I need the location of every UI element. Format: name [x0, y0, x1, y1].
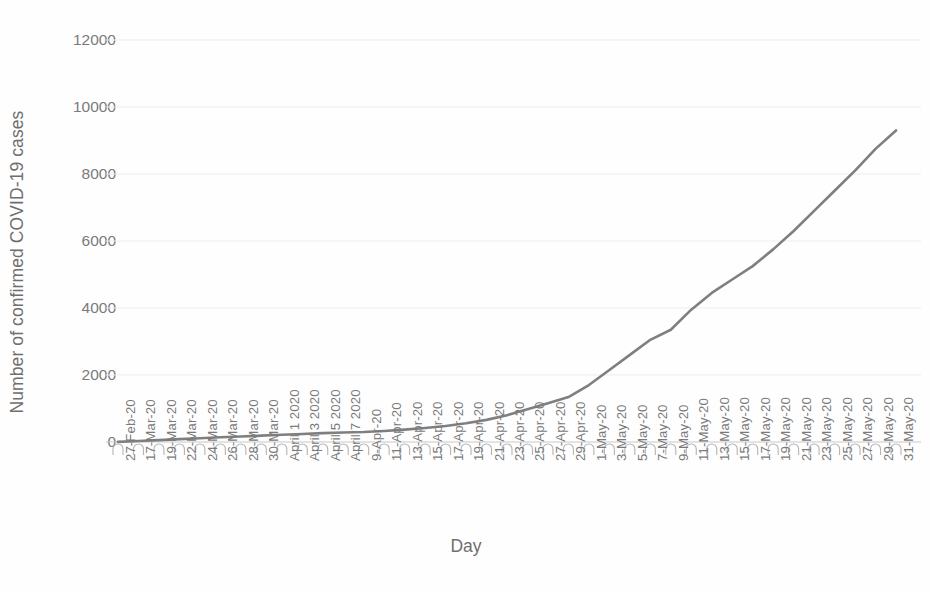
x-tick-label: 30-Mar-20: [266, 399, 281, 461]
x-tick-label: 5-May-20: [635, 405, 650, 462]
x-tick-label: 27-May-20: [860, 397, 875, 461]
x-tick-label: 17-Apr-20: [451, 401, 466, 461]
x-axis-tick-labels: 27-Feb-2017-Mar-2019-Mar-2022-Mar-2024-M…: [0, 0, 932, 591]
x-tick-label: 17-May-20: [758, 397, 773, 461]
x-tick-label: 27-Feb-20: [123, 399, 138, 461]
x-tick-label: 13-Apr-20: [410, 401, 425, 461]
x-tick-label: 25-Apr-20: [532, 401, 547, 461]
x-tick-label: 7-May-20: [655, 405, 670, 462]
x-tick-label: 23-May-20: [819, 397, 834, 461]
x-tick-label: 11-May-20: [696, 398, 711, 461]
x-tick-label: 19-Apr-20: [471, 401, 486, 461]
x-tick-label: 17-Mar-20: [143, 399, 158, 461]
x-tick-label: April 7 2020: [348, 389, 363, 461]
x-tick-label: 1-May-20: [594, 405, 609, 462]
x-tick-label: April 5 2020: [328, 389, 343, 461]
x-tick-label: 27-Apr-20: [553, 401, 568, 461]
x-tick-label: 9-Apr-20: [369, 409, 384, 461]
x-axis-title: Day: [0, 536, 932, 557]
x-tick-label: 24-Mar-20: [205, 399, 220, 461]
chart-container: Number of confirmed COVID-19 cases 02000…: [0, 0, 932, 591]
x-tick-label: April 3 2020: [307, 389, 322, 461]
x-tick-label: 15-May-20: [737, 397, 752, 461]
x-tick-label: 15-Apr-20: [430, 401, 445, 461]
x-tick-label: 26-Mar-20: [225, 399, 240, 461]
x-tick-label: 25-May-20: [840, 397, 855, 461]
x-tick-label: 21-Apr-20: [492, 401, 507, 461]
x-tick-label: April 1 2020: [287, 389, 302, 461]
x-tick-label: 22-Mar-20: [184, 399, 199, 461]
x-tick-label: 29-Apr-20: [573, 401, 588, 461]
x-tick-label: 11-Apr-20: [389, 402, 404, 461]
x-tick-label: 9-May-20: [676, 405, 691, 462]
x-tick-label: 19-May-20: [778, 397, 793, 461]
x-tick-label: 19-Mar-20: [164, 399, 179, 461]
x-tick-label: 13-May-20: [717, 397, 732, 461]
x-tick-label: 3-May-20: [614, 405, 629, 462]
x-tick-label: 23-Apr-20: [512, 401, 527, 461]
x-tick-label: 28-Mar-20: [246, 399, 261, 461]
x-tick-label: 21-May-20: [799, 397, 814, 461]
x-tick-label: 29-May-20: [881, 397, 896, 461]
x-tick-label: 31-May-20: [901, 397, 916, 461]
